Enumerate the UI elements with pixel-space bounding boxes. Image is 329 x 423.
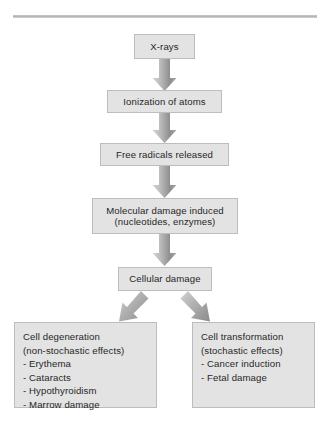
arrow-free-radicals-to-molecular-damage [153, 166, 177, 198]
node-cellular-damage-line-0: Cellular damage [129, 273, 200, 284]
node-cell-transformation[interactable]: Cell transformation (stochastic effects)… [192, 322, 315, 408]
flowchart-canvas: X-rays Ionization of atoms Free radicals… [0, 0, 329, 423]
arrow-molecular-damage-to-cellular-damage [153, 234, 177, 266]
node-cell-transformation-line-2: - Cancer induction [201, 357, 281, 371]
node-cell-degeneration[interactable]: Cell degeneration (non-stochastic effect… [14, 322, 157, 408]
node-cell-transformation-line-3: - Fetal damage [201, 371, 267, 385]
arrow-xrays-to-ionization [153, 59, 177, 91]
node-molecular-damage-line-0: Molecular damage induced [106, 205, 224, 216]
node-cell-degeneration-line-4: - Hypothyroidism [23, 384, 97, 398]
arrow-cellular-damage-to-cell-degeneration [119, 291, 149, 322]
node-cell-degeneration-line-0: Cell degeneration [23, 330, 100, 344]
node-cell-degeneration-line-5: - Marrow damage [23, 398, 100, 412]
node-cell-degeneration-line-1: (non-stochastic effects) [23, 344, 124, 358]
node-molecular-damage[interactable]: Molecular damage induced (nucleotides, e… [92, 198, 238, 234]
node-xrays-line-0: X-rays [150, 41, 178, 52]
node-cell-degeneration-line-2: - Erythema [23, 357, 71, 371]
node-cellular-damage[interactable]: Cellular damage [118, 267, 212, 291]
node-free-radicals-line-0: Free radicals released [116, 149, 213, 160]
node-cell-transformation-line-1: (stochastic effects) [201, 344, 283, 358]
header-divider [13, 15, 317, 18]
node-free-radicals[interactable]: Free radicals released [100, 143, 229, 166]
node-cell-transformation-line-0: Cell transformation [201, 330, 283, 344]
node-cell-degeneration-line-3: - Cataracts [23, 371, 71, 385]
arrow-cellular-damage-to-cell-transformation [181, 291, 211, 322]
arrow-ionization-to-free-radicals [153, 113, 177, 143]
node-xrays[interactable]: X-rays [134, 34, 195, 59]
node-ionization[interactable]: Ionization of atoms [107, 90, 222, 113]
node-molecular-damage-line-1: (nucleotides, enzymes) [115, 216, 216, 227]
node-ionization-line-0: Ionization of atoms [123, 96, 205, 107]
